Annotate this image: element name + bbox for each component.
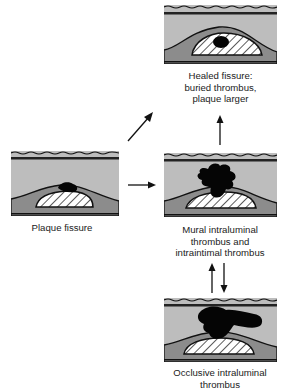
buried-thrombus (213, 36, 229, 48)
arrow-right-icon (127, 180, 157, 190)
artery-cross-section-fissure (11, 151, 119, 216)
caption-mural-thrombus: Mural intraluminal thrombus and intraint… (154, 224, 282, 259)
caption-plaque-fissure: Plaque fissure (0, 222, 124, 234)
panel-occlusive-thrombus (164, 298, 277, 362)
panel-plaque-fissure (11, 151, 119, 216)
artery-cross-section-healed (164, 5, 277, 64)
panel-mural-thrombus (164, 153, 277, 217)
caption-healed-fissure: Healed fissure: buried thrombus, plaque … (158, 70, 282, 105)
arrow-down-icon (219, 262, 229, 294)
caption-occlusive-thrombus: Occlusive intraluminal thrombus (150, 367, 282, 390)
artery-cross-section-mural (164, 153, 277, 217)
artery-cross-section-occlusive (164, 298, 277, 362)
arrow-diagonal-up-right-icon (125, 110, 155, 144)
panel-healed-fissure (164, 5, 277, 64)
arrow-up-icon (215, 114, 225, 146)
arrow-up-icon (207, 262, 217, 294)
